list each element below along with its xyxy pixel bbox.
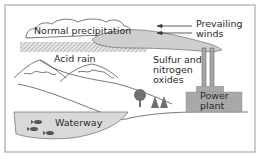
power-plant-label-line2: plant [200,101,224,111]
emissions-label-line3: oxides [153,75,184,85]
prevailing-winds-label-line2: winds [196,29,223,39]
waterway-label: Waterway [55,118,102,128]
acid-rain-label: Acid rain [54,54,96,64]
acid-rain-diagram: Normal precipitation Prevailing winds Ac… [0,0,260,159]
normal-precipitation-label: Normal precipitation [34,26,131,36]
